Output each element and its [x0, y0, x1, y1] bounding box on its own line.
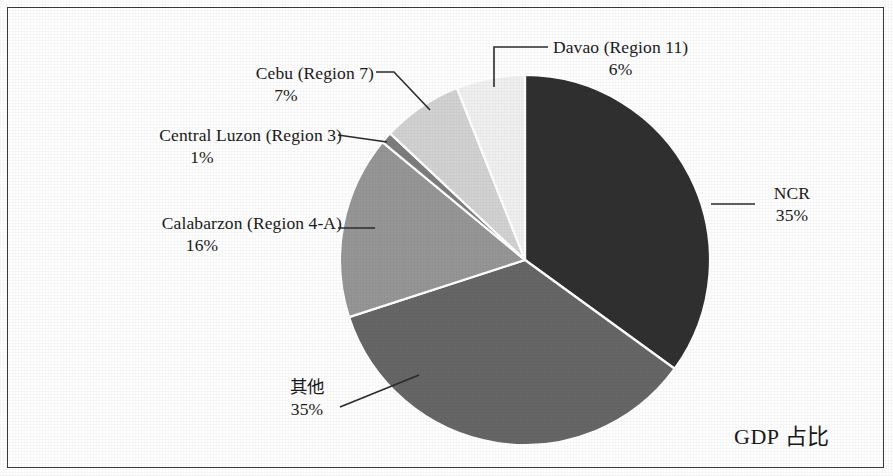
- slice-label-central-luzon-name: Central Luzon (Region 3): [159, 125, 342, 145]
- slice-label-central-luzon: Central Luzon (Region 3) 1%: [62, 124, 342, 169]
- slice-label-davao: Davao (Region 11) 6%: [553, 36, 688, 81]
- slice-label-calabarzon-pct: 16%: [62, 234, 342, 256]
- slice-label-ncr: NCR 35%: [760, 182, 824, 227]
- slice-label-central-luzon-pct: 1%: [62, 146, 342, 168]
- chart-title: GDP 占比: [734, 418, 830, 450]
- pie-slices: [340, 75, 710, 445]
- slice-label-ncr-name: NCR: [774, 183, 810, 203]
- slice-label-other: 其他 35%: [276, 376, 338, 421]
- chart-page: Davao (Region 11) 6% Cebu (Region 7) 7% …: [0, 0, 893, 476]
- slice-label-davao-name: Davao (Region 11): [553, 37, 688, 57]
- slice-label-cebu: Cebu (Region 7) 7%: [198, 62, 374, 107]
- slice-label-other-pct: 35%: [276, 398, 338, 420]
- leader-line-luzon: [338, 135, 387, 142]
- slice-label-calabarzon: Calabarzon (Region 4-A) 16%: [62, 212, 342, 257]
- leader-line-cebu: [376, 72, 430, 110]
- slice-label-cebu-pct: 7%: [198, 84, 374, 106]
- slice-label-ncr-pct: 35%: [760, 204, 824, 226]
- slice-label-other-name: 其他: [290, 377, 324, 397]
- slice-label-calabarzon-name: Calabarzon (Region 4-A): [162, 213, 342, 233]
- slice-label-cebu-name: Cebu (Region 7): [256, 63, 374, 83]
- slice-label-davao-pct: 6%: [553, 58, 688, 80]
